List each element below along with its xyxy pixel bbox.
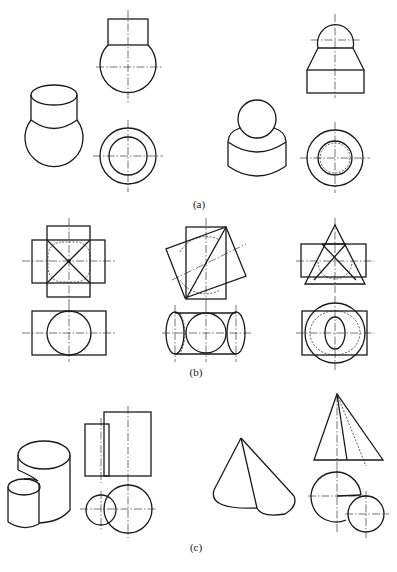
b-left-cross (22, 218, 116, 305)
b-right-circles (296, 296, 374, 370)
a-iso-sphere-cylinder (228, 100, 286, 176)
c-top-cone (308, 470, 389, 538)
a-front-sphere-frustum-block (307, 14, 364, 98)
a-iso-cylinder-sphere (25, 85, 83, 167)
b-mid-rotated (166, 218, 246, 305)
caption-c: (c) (190, 541, 202, 553)
c-top-two-circles (80, 483, 157, 538)
a-front-square-circle (96, 10, 163, 103)
a-top-right-concentric (300, 122, 370, 193)
b-mid-cylinder (162, 305, 252, 362)
a-top-concentric (93, 120, 163, 192)
caption-b: (b) (190, 366, 203, 378)
b-left-rect-circle (22, 305, 116, 362)
caption-a: (a) (193, 198, 205, 210)
c-iso-split-cone (213, 438, 295, 515)
c-front-cone (314, 394, 383, 475)
drawing-canvas (0, 0, 397, 572)
b-right-triangle (296, 218, 374, 293)
c-front-two-rects (85, 406, 151, 483)
c-iso-two-cylinders (8, 441, 70, 528)
